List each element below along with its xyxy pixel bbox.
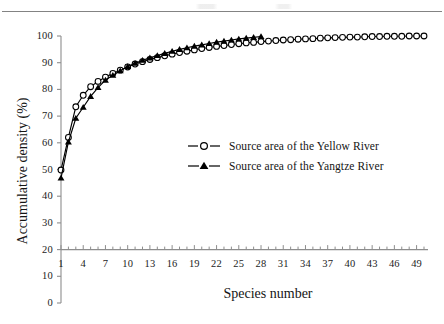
data-point-marker: [414, 33, 420, 39]
x-axis-tick-label: 7: [94, 259, 116, 270]
filled-triangle-marker-icon: [187, 159, 221, 173]
data-point-marker: [280, 37, 286, 43]
x-axis-tick-label: 13: [139, 259, 161, 270]
data-point-marker: [347, 34, 353, 40]
data-point-marker: [251, 40, 257, 46]
x-axis-tick-label: 49: [406, 259, 428, 270]
data-point-marker: [421, 33, 427, 39]
data-point-marker: [58, 175, 65, 181]
y-axis-tick-label: 0: [27, 298, 53, 309]
legend-item-yangtze-river: Source area of the Yangtze River: [187, 156, 384, 176]
data-point-marker: [303, 36, 309, 42]
data-point-marker: [236, 41, 242, 47]
data-point-marker: [273, 38, 279, 44]
data-point-marker: [88, 84, 94, 90]
y-axis-title: Accumulative density (%): [15, 56, 31, 286]
data-point-marker: [406, 33, 412, 39]
legend-label-yangtze-river: Source area of the Yangtze River: [221, 160, 384, 172]
x-axis-tick-label: 19: [183, 259, 205, 270]
x-axis-tick-label: 34: [294, 259, 316, 270]
data-point-marker: [310, 36, 316, 42]
legend-label-yellow-river: Source area of the Yellow River: [221, 140, 379, 152]
chart-legend: Source area of the Yellow River Source a…: [187, 136, 384, 176]
data-point-marker: [377, 34, 383, 40]
data-point-marker: [325, 35, 331, 41]
data-point-marker: [243, 40, 249, 46]
data-point-marker: [362, 34, 368, 40]
data-point-marker: [80, 92, 86, 98]
data-point-marker: [258, 39, 264, 45]
data-point-marker: [317, 35, 323, 41]
x-axis-tick-label: 25: [228, 259, 250, 270]
x-axis-tick-label: 22: [206, 259, 228, 270]
open-circle-marker-icon: [187, 139, 221, 153]
data-point-marker: [340, 34, 346, 40]
y-axis-tick-label: 100: [27, 31, 53, 42]
data-point-marker: [384, 33, 390, 39]
x-axis-tick-label: 37: [317, 259, 339, 270]
x-axis-tick-label: 40: [339, 259, 361, 270]
data-point-marker: [258, 33, 265, 39]
x-axis-tick-label: 46: [383, 259, 405, 270]
data-point-marker: [399, 33, 405, 39]
data-point-marker: [266, 38, 272, 44]
x-axis-tick-label: 1: [50, 259, 72, 270]
legend-item-yellow-river: Source area of the Yellow River: [187, 136, 384, 156]
x-axis-tick-label: 10: [117, 259, 139, 270]
data-point-marker: [80, 104, 87, 110]
x-axis-tick-label: 16: [161, 259, 183, 270]
data-point-marker: [354, 34, 360, 40]
x-axis-tick-label: 28: [250, 259, 272, 270]
data-point-marker: [391, 33, 397, 39]
data-point-marker: [95, 78, 101, 84]
x-axis-tick-label: 43: [361, 259, 383, 270]
x-axis-tick-label: 31: [272, 259, 294, 270]
figure-container: 0102030405060708090100 14710131619222528…: [0, 0, 444, 324]
data-point-marker: [288, 37, 294, 43]
data-point-marker: [295, 36, 301, 42]
x-axis-title: Species number: [178, 286, 358, 302]
data-point-marker: [73, 104, 79, 110]
data-point-marker: [332, 35, 338, 41]
x-axis-tick-label: 4: [72, 259, 94, 270]
data-point-marker: [369, 34, 375, 40]
